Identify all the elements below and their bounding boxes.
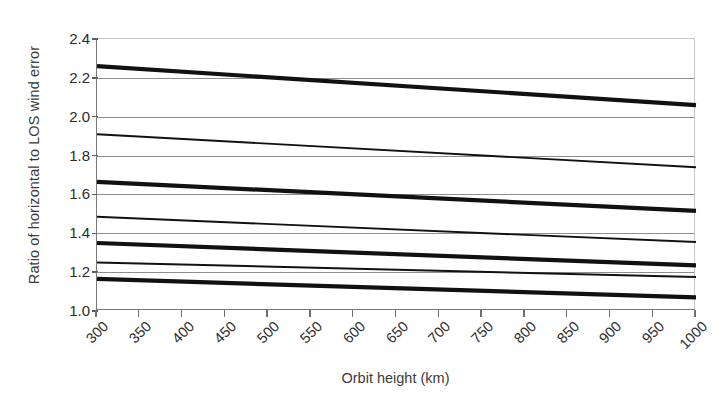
series-line-5 (97, 243, 696, 265)
x-axis-tick-mark (438, 310, 439, 317)
y-axis-tick-label: 1.8 (48, 146, 90, 163)
y-axis-tick-label: 1.2 (48, 263, 90, 280)
x-axis-tick-label: 800 (454, 318, 539, 403)
y-axis-tick-label: 1.0 (48, 302, 90, 319)
y-axis-tick-label: 1.6 (48, 185, 90, 202)
x-axis-tick-mark (352, 310, 353, 317)
chart-figure: Ratio of horizontal to LOS wind error 2.… (0, 0, 722, 406)
x-axis-tick-mark (266, 310, 267, 317)
y-axis-tick-label: 2.2 (48, 68, 90, 85)
x-axis-tick-mark (609, 310, 610, 317)
x-axis-title: Orbit height (km) (96, 370, 695, 386)
x-axis-tick-mark (694, 310, 695, 317)
y-axis-tick-label: 2.4 (48, 30, 90, 47)
y-axis-tick-labels: 2.42.22.01.81.61.41.21.0 (48, 38, 90, 310)
x-axis-tick-mark (652, 310, 653, 317)
x-axis-tick-mark (224, 310, 225, 317)
x-axis-tick-mark (523, 310, 524, 317)
x-axis-tick-mark (309, 310, 310, 317)
x-axis-tick-marks (96, 310, 695, 318)
x-axis-tick-label: 300 (26, 318, 111, 403)
series-line-1 (97, 66, 696, 105)
series-line-7 (97, 279, 696, 297)
y-axis-tick-label: 1.4 (48, 224, 90, 241)
x-axis-tick-mark (138, 310, 139, 317)
x-axis-tick-label: 550 (240, 318, 325, 403)
x-axis-tick-mark (480, 310, 481, 317)
x-axis-tick-label: 600 (283, 318, 368, 403)
x-axis-tick-mark (181, 310, 182, 317)
x-axis-tick-labels: 3003504004505005506006507007508008509009… (96, 318, 695, 366)
series-line-6 (97, 262, 696, 277)
plot-area (96, 38, 695, 310)
series-line-2 (97, 134, 696, 167)
series-lines (97, 39, 696, 311)
x-axis-tick-mark (95, 310, 96, 317)
y-axis-tick-label: 2.0 (48, 107, 90, 124)
x-axis-tick-mark (395, 310, 396, 317)
x-axis-tick-label: 350 (69, 318, 154, 403)
x-axis-tick-mark (566, 310, 567, 317)
x-axis-tick-label: 1000 (625, 318, 710, 403)
series-line-3 (97, 182, 696, 211)
series-line-4 (97, 217, 696, 242)
